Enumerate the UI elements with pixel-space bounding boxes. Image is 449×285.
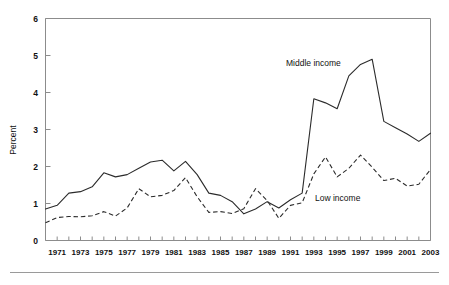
x-tick-label-1993: 1993 <box>305 248 323 257</box>
chart-background <box>0 0 449 285</box>
x-tick-label-1981: 1981 <box>165 248 183 257</box>
x-tick-label-1989: 1989 <box>258 248 276 257</box>
x-tick-label-1999: 1999 <box>375 248 393 257</box>
y-tick-label-5: 5 <box>33 51 38 61</box>
x-tick-label-1977: 1977 <box>118 248 136 257</box>
y-tick-label-4: 4 <box>33 88 38 98</box>
x-tick-label-1973: 1973 <box>72 248 90 257</box>
x-tick-label-1991: 1991 <box>282 248 300 257</box>
x-tick-label-1975: 1975 <box>95 248 113 257</box>
y-axis-title: Percent <box>8 125 18 155</box>
y-tick-label-3: 3 <box>33 125 38 135</box>
x-tick-label-1987: 1987 <box>235 248 253 257</box>
annotation-middle-income: Middle income <box>286 58 341 68</box>
x-tick-label-2003: 2003 <box>422 248 440 257</box>
y-tick-label-6: 6 <box>33 14 38 24</box>
y-tick-label-1: 1 <box>33 199 38 209</box>
x-tick-label-1997: 1997 <box>352 248 370 257</box>
x-tick-label-1985: 1985 <box>212 248 230 257</box>
x-tick-label-2001: 2001 <box>398 248 416 257</box>
line-chart-svg: 0 1 2 3 4 5 6 <box>0 0 449 285</box>
x-tick-label-1971: 1971 <box>48 248 66 257</box>
x-tick-label-1983: 1983 <box>188 248 206 257</box>
x-tick-label-1979: 1979 <box>142 248 160 257</box>
y-tick-label-0: 0 <box>33 236 38 246</box>
x-tick-label-1995: 1995 <box>328 248 346 257</box>
y-tick-label-2: 2 <box>33 162 38 172</box>
annotation-low-income: Low income <box>315 193 361 203</box>
